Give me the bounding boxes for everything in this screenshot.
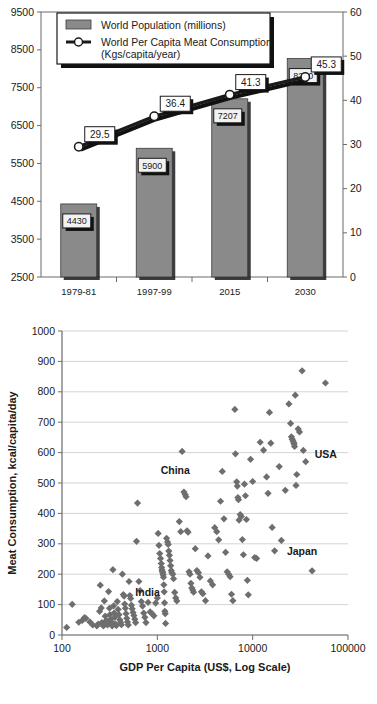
scatter-point xyxy=(155,542,162,549)
scatter-point xyxy=(125,578,132,585)
scatter-point xyxy=(239,536,246,543)
legend-label-meat: World Per Capita Meat Consumption xyxy=(101,36,272,48)
x-axis-category-label: 2030 xyxy=(295,286,316,297)
legend-swatch-population xyxy=(66,20,91,29)
scatter-point xyxy=(244,577,251,584)
scatter-point xyxy=(322,379,329,386)
legend-label-population: World Population (millions) xyxy=(101,19,226,31)
line-label-text: 41.3 xyxy=(241,77,261,88)
y2-axis-tick-label: 20 xyxy=(350,182,362,194)
scatter-point xyxy=(222,549,229,556)
scatter-points xyxy=(63,367,329,631)
y-axis-tick-label: 500 xyxy=(37,477,55,489)
scatter-point xyxy=(257,439,264,446)
scatter-point xyxy=(266,409,273,416)
scatter-point xyxy=(245,591,252,598)
line-label-text: 36.4 xyxy=(166,98,186,109)
line-marker xyxy=(226,90,234,98)
scatter-point xyxy=(69,601,76,608)
scatter-point xyxy=(302,458,309,465)
scatter-point xyxy=(217,498,224,505)
x-axis-tick-label: 10000 xyxy=(238,642,267,654)
scatter-point xyxy=(263,473,270,480)
scatter-annotation-label: USA xyxy=(315,448,338,460)
x-axis-tick-label: 1000 xyxy=(146,642,170,654)
scatter-point xyxy=(269,524,276,531)
scatter-point xyxy=(105,588,112,595)
x-axis-tick-label: 100 xyxy=(53,642,71,654)
scatter-point xyxy=(122,605,129,612)
scatter-point xyxy=(234,482,241,489)
scatter-point xyxy=(264,490,271,497)
population-meat-combo-chart: 2500350045005500650075008500950001020304… xyxy=(0,0,377,300)
scatter-point xyxy=(177,528,184,535)
y-axis-tick-label: 200 xyxy=(37,568,55,580)
line-label-text: 45.3 xyxy=(317,59,337,70)
scatter-point xyxy=(215,536,222,543)
y-axis-tick-label: 3500 xyxy=(11,233,35,245)
scatter-point xyxy=(241,481,248,488)
y-axis-title: Meat Consumption, kcal/capita/day xyxy=(6,390,18,574)
y-axis-tick-label: 1000 xyxy=(32,325,56,337)
scatter-annotation-label: India xyxy=(135,586,160,598)
x-axis-tick-label: 100000 xyxy=(330,642,365,654)
scatter-point xyxy=(285,400,292,407)
bar-label-text: 7207 xyxy=(218,111,238,121)
bar-label-text: 4430 xyxy=(67,216,87,226)
scatter-point xyxy=(171,589,178,596)
scatter-point xyxy=(162,620,169,627)
bar-series xyxy=(61,59,327,280)
scatter-point xyxy=(271,547,278,554)
scatter-point xyxy=(220,515,227,522)
scatter-point xyxy=(240,551,247,558)
y2-axis-tick-label: 50 xyxy=(350,50,362,62)
y-axis-tick-label: 7500 xyxy=(11,81,35,93)
scatter-point xyxy=(161,588,168,595)
y-axis-tick-label: 900 xyxy=(37,355,55,367)
scatter-point xyxy=(276,463,283,470)
scatter-point xyxy=(228,591,235,598)
gridlines xyxy=(62,331,348,635)
y-axis-tick-label: 100 xyxy=(37,598,55,610)
scatter-point xyxy=(135,578,142,585)
scatter-point xyxy=(293,471,300,478)
bar xyxy=(287,59,323,277)
scatter-point xyxy=(202,597,209,604)
scatter-point xyxy=(134,499,141,506)
y2-axis-tick-label: 40 xyxy=(350,94,362,106)
scatter-point xyxy=(109,566,116,573)
y2-axis-tick-label: 60 xyxy=(350,6,362,18)
scatter-point xyxy=(160,581,167,588)
scatter-point xyxy=(242,492,249,499)
line-marker xyxy=(150,112,158,120)
scatter-point xyxy=(229,597,236,604)
scatter-point xyxy=(170,575,177,582)
scatter-point xyxy=(287,420,294,427)
scatter-point xyxy=(232,450,239,457)
x-axis-category-label: 1997-99 xyxy=(137,286,172,297)
y-axis-tick-label: 5500 xyxy=(11,157,35,169)
y-axis-tick-label: 4500 xyxy=(11,195,35,207)
bar-value-labels: 4430590072078270 xyxy=(63,69,321,231)
y2-axis-tick-label: 10 xyxy=(350,226,362,238)
scatter-point xyxy=(161,599,168,606)
scatter-point xyxy=(192,545,199,552)
scatter-point xyxy=(278,537,285,544)
scatter-point xyxy=(155,530,162,537)
y-axis-tick-label: 2500 xyxy=(11,271,35,283)
scatter-point xyxy=(179,448,186,455)
figure-container: 2500350045005500650075008500950001020304… xyxy=(0,0,377,704)
scatter-point xyxy=(308,567,315,574)
x-axis-title: GDP Per Capita (US$, Log Scale) xyxy=(120,661,291,673)
scatter-point xyxy=(101,597,108,604)
scatter-point xyxy=(204,552,211,559)
scatter-point xyxy=(247,456,254,463)
scatter-point xyxy=(282,487,289,494)
line-marker xyxy=(301,73,309,81)
y2-axis-tick-label: 0 xyxy=(350,271,356,283)
line-label-text: 29.5 xyxy=(90,129,110,140)
scatter-point xyxy=(176,518,183,525)
gdp-meat-scatter-chart: 0100200300400500600700800900100010010001… xyxy=(0,300,377,704)
scatter-point xyxy=(97,582,104,589)
y-axis-tick-label: 700 xyxy=(37,416,55,428)
